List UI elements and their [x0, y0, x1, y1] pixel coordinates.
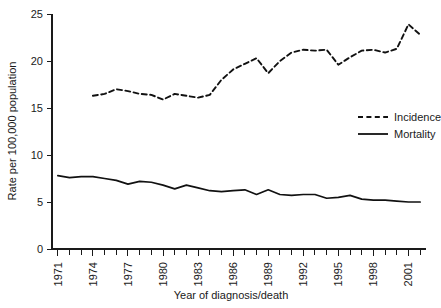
x-tick-label: 1980 — [157, 262, 169, 286]
x-tick-label: 1977 — [122, 262, 134, 286]
x-axis-group: 1971197419771980198319861989199219951998… — [52, 249, 426, 301]
legend-label-mortality: Mortality — [394, 128, 436, 140]
x-tick-label: 1986 — [227, 262, 239, 286]
y-tick-label: 0 — [37, 243, 43, 255]
x-tick-label: 1989 — [262, 262, 274, 286]
series-line-mortality — [58, 176, 420, 202]
x-tick-label: 2001 — [402, 262, 414, 286]
x-axis-title: Year of diagnosis/death — [174, 289, 289, 301]
series-line-incidence — [93, 24, 420, 99]
legend-label-incidence: Incidence — [394, 111, 441, 123]
y-tick-label: 15 — [31, 102, 43, 114]
y-tick-marks — [47, 14, 52, 249]
y-axis-group: 0510152025 Rate per 100,000 population — [6, 8, 52, 255]
y-tick-label: 5 — [37, 196, 43, 208]
x-tick-label: 1971 — [52, 262, 64, 286]
x-tick-label: 1974 — [87, 262, 99, 286]
y-tick-label: 20 — [31, 55, 43, 67]
y-tick-label: 25 — [31, 8, 43, 20]
x-tick-label: 1983 — [192, 262, 204, 286]
chart-legend: IncidenceMortality — [358, 111, 441, 140]
x-tick-label: 1998 — [367, 262, 379, 286]
y-axis-title: Rate per 100,000 population — [6, 62, 18, 201]
y-tick-label: 10 — [31, 149, 43, 161]
y-tick-labels: 0510152025 — [31, 8, 43, 255]
x-tick-labels: 1971197419771980198319861989199219951998… — [52, 262, 415, 286]
x-tick-label: 1992 — [297, 262, 309, 286]
chart-figure: 0510152025 Rate per 100,000 population 1… — [0, 0, 441, 308]
line-chart-plot: 0510152025 Rate per 100,000 population 1… — [0, 0, 441, 308]
data-series-group — [58, 24, 420, 202]
x-tick-marks — [58, 249, 420, 256]
x-tick-label: 1995 — [332, 262, 344, 286]
